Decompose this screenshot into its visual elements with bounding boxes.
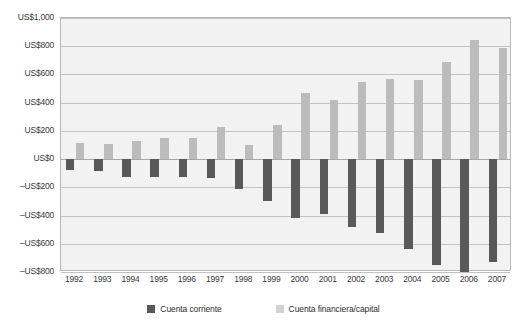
bar-2005-cuenta-corriente [432, 159, 441, 265]
y-tick-label: –US$200 [20, 181, 54, 191]
y-tick-label: US$600 [24, 68, 54, 78]
bar-1996-cuenta-financiera-capital [189, 138, 198, 159]
x-tick-label-1995: 1995 [150, 274, 168, 284]
bar-group [456, 18, 484, 270]
bar-2004-cuenta-corriente [404, 159, 413, 249]
bar-1995-cuenta-financiera-capital [160, 138, 169, 159]
bar-group [174, 18, 202, 270]
bar-1998-cuenta-financiera-capital [245, 145, 254, 159]
chart-container: US$1,000US$800US$600US$400US$200US$0–US$… [0, 0, 527, 329]
bar-group [258, 18, 286, 270]
x-tick-label-1997: 1997 [206, 274, 224, 284]
y-tick-label: US$200 [24, 125, 54, 135]
bar-2007-cuenta-corriente [489, 159, 498, 262]
bar-group [484, 18, 512, 270]
y-tick-label: US$800 [24, 40, 54, 50]
x-tick-label-2006: 2006 [460, 274, 478, 284]
x-tick-label-1999: 1999 [262, 274, 280, 284]
y-tick-label: US$0 [34, 153, 54, 163]
bar-2003-cuenta-corriente [376, 159, 385, 233]
bar-2006-cuenta-financiera-capital [470, 40, 479, 159]
bar-1997-cuenta-corriente [207, 159, 216, 178]
bar-2001-cuenta-financiera-capital [330, 100, 339, 159]
x-tick-label-1994: 1994 [121, 274, 139, 284]
y-tick-label: US$400 [24, 97, 54, 107]
bar-group [89, 18, 117, 270]
y-tick-label: –US$400 [20, 210, 54, 220]
bar-2001-cuenta-corriente [320, 159, 329, 214]
bar-1992-cuenta-financiera-capital [76, 143, 85, 159]
bar-group [61, 18, 89, 270]
bar-2006-cuenta-corriente [460, 159, 469, 272]
y-tick-label: –US$800 [20, 266, 54, 276]
legend-item-cuenta-financiera-capital[interactable]: Cuenta financiera/capital [276, 300, 380, 318]
bar-1992-cuenta-corriente [66, 159, 75, 170]
legend-swatch-icon [147, 305, 155, 313]
bar-1994-cuenta-corriente [122, 159, 131, 177]
bar-2007-cuenta-financiera-capital [499, 48, 508, 159]
legend-label: Cuenta corriente [160, 304, 221, 314]
y-tick-label: –US$600 [20, 238, 54, 248]
bar-2000-cuenta-financiera-capital [301, 93, 310, 159]
bar-group [230, 18, 258, 270]
bar-1998-cuenta-corriente [235, 159, 244, 189]
y-tick-label: US$1,000 [18, 12, 54, 22]
x-axis-labels: 1992199319941995199619971998199920002001… [60, 274, 511, 290]
x-tick-label-1993: 1993 [93, 274, 111, 284]
bar-series-layer [61, 18, 510, 270]
bar-2005-cuenta-financiera-capital [442, 62, 451, 159]
gridline--800 [61, 272, 510, 273]
bar-1996-cuenta-corriente [179, 159, 188, 177]
x-tick-label-2007: 2007 [488, 274, 506, 284]
bar-1994-cuenta-financiera-capital [132, 141, 141, 159]
chart-legend: Cuenta corrienteCuenta financiera/capita… [0, 300, 527, 318]
bar-group [287, 18, 315, 270]
bar-group [146, 18, 174, 270]
bar-group [427, 18, 455, 270]
bar-2003-cuenta-financiera-capital [386, 79, 395, 159]
y-axis-labels: US$1,000US$800US$600US$400US$200US$0–US$… [0, 0, 60, 300]
bar-1993-cuenta-financiera-capital [104, 144, 113, 160]
x-tick-label-2000: 2000 [291, 274, 309, 284]
bar-group [117, 18, 145, 270]
legend-label: Cuenta financiera/capital [289, 304, 380, 314]
x-tick-label-1998: 1998 [234, 274, 252, 284]
bar-group [343, 18, 371, 270]
plot-area [60, 17, 511, 271]
legend-swatch-icon [276, 305, 284, 313]
bar-group [371, 18, 399, 270]
x-tick-label-2004: 2004 [403, 274, 421, 284]
bar-1997-cuenta-financiera-capital [217, 127, 226, 159]
bar-group [399, 18, 427, 270]
x-tick-label-1996: 1996 [178, 274, 196, 284]
bar-2000-cuenta-corriente [291, 159, 300, 218]
bar-2002-cuenta-financiera-capital [358, 82, 367, 160]
x-tick-label-2002: 2002 [347, 274, 365, 284]
x-tick-label-1992: 1992 [65, 274, 83, 284]
bar-1999-cuenta-corriente [263, 159, 272, 201]
bar-2002-cuenta-corriente [348, 159, 357, 227]
legend-item-cuenta-corriente[interactable]: Cuenta corriente [147, 300, 221, 318]
x-tick-label-2005: 2005 [431, 274, 449, 284]
bar-group [202, 18, 230, 270]
bar-1993-cuenta-corriente [94, 159, 103, 171]
x-tick-label-2001: 2001 [319, 274, 337, 284]
x-tick-label-2003: 2003 [375, 274, 393, 284]
bar-group [315, 18, 343, 270]
bar-1999-cuenta-financiera-capital [273, 125, 282, 159]
bar-2004-cuenta-financiera-capital [414, 80, 423, 159]
bar-1995-cuenta-corriente [150, 159, 159, 177]
